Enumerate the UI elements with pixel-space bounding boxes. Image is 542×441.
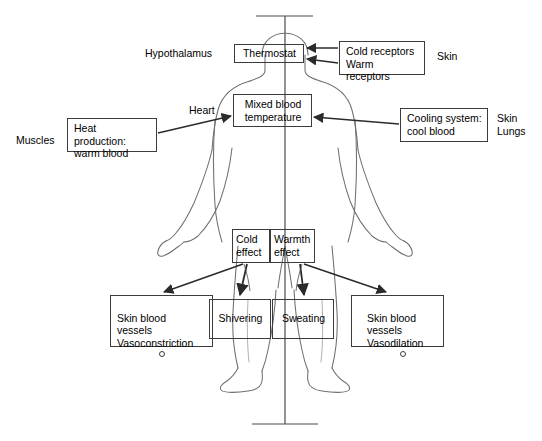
arrow-cooling-system-to-mixed-blood (314, 117, 399, 124)
box-sweating[interactable]: Sweating (272, 299, 334, 339)
diagram-canvas: Thermostat Mixed blood temperature Heat … (0, 0, 542, 441)
label-hypothalamus: Hypothalamus (145, 47, 212, 60)
box-skin-receptors[interactable]: Cold receptors Warm receptors (339, 41, 425, 75)
vasodilation-circle-icon (400, 351, 406, 357)
box-warmth-effect[interactable]: Warmth effect (270, 229, 315, 263)
label-skin-receptors: Skin (437, 50, 457, 63)
box-cooling-system[interactable]: Cooling system: cool blood (400, 108, 488, 142)
box-vasoconstriction-label: Skin blood vessels Vasoconstriction (117, 312, 193, 349)
arrow-receptors-to-thermostat (307, 48, 338, 63)
label-skin-lungs: Skin Lungs (497, 112, 526, 137)
label-muscles: Muscles (16, 134, 55, 147)
human-body-and-arrows-layer (0, 0, 542, 441)
box-vasodilation[interactable]: Skin blood vessels Vasodilation (351, 295, 444, 347)
effect-box-connectors (244, 264, 302, 291)
center-axis (252, 16, 318, 424)
arrow-cold-effect-to-vasoconstriction (164, 264, 243, 292)
arrow-heat-production-to-mixed-blood (158, 116, 231, 133)
box-heat-production[interactable]: Heat production: warm blood (67, 118, 157, 152)
box-vasodilation-label: Skin blood vessels Vasodilation (367, 312, 423, 349)
label-heart: Heart (189, 104, 215, 117)
box-mixed-blood-temperature[interactable]: Mixed blood temperature (233, 94, 312, 127)
box-thermostat[interactable]: Thermostat (234, 44, 304, 63)
vasoconstriction-circle-icon (159, 351, 165, 357)
box-cold-effect[interactable]: Cold effect (232, 229, 270, 263)
arrow-cold-effect-to-shivering (240, 264, 247, 295)
arrow-warmth-effect-to-vasodilation (304, 264, 386, 292)
box-shivering[interactable]: Shivering (209, 299, 271, 339)
box-vasoconstriction[interactable]: Skin blood vessels Vasoconstriction (110, 295, 213, 347)
